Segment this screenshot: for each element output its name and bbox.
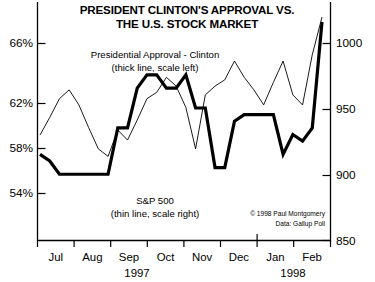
x-year-label-1998: 1998 (280, 267, 305, 279)
legend-sp500-subtitle: (thin line, scale right) (111, 208, 200, 219)
x-year-label-1997: 1997 (124, 267, 149, 279)
source-text: Data: Gallup Poll (276, 220, 326, 228)
x-label-jul: Jul (49, 251, 64, 263)
x-label-feb: Feb (302, 251, 322, 263)
x-label-aug: Aug (82, 251, 102, 263)
x-label-jan: Jan (266, 251, 284, 263)
right-axis-label-900: 900 (336, 168, 356, 182)
x-label-dec: Dec (229, 251, 250, 263)
left-axis-label-58: 58% (9, 141, 33, 155)
left-axis-label-66: 66% (9, 36, 33, 50)
right-axis-label-850: 850 (336, 234, 356, 248)
x-label-sep: Sep (119, 251, 139, 263)
legend-approval-title: Presidential Approval - Clinton (91, 49, 220, 60)
right-axis-label-950: 950 (336, 102, 356, 116)
left-axis-label-54: 54% (9, 186, 33, 200)
chart-title-line-2: THE U.S. STOCK MARKET (116, 17, 258, 30)
legend-sp500-title: S&P 500 (136, 195, 174, 206)
x-label-nov: Nov (192, 251, 213, 263)
copyright-text: © 1998 Paul Montgomery (250, 210, 326, 218)
right-axis-label-1000: 1000 (336, 36, 363, 50)
chart-title-line-1: PRESIDENT CLINTON'S APPROVAL VS. (80, 3, 295, 16)
legend-approval-subtitle: (thick line, scale left) (112, 62, 199, 73)
left-axis-label-62: 62% (9, 96, 33, 110)
approval-vs-stock-market-chart: PRESIDENT CLINTON'S APPROVAL VS. THE U.S… (0, 0, 375, 282)
x-label-oct: Oct (157, 251, 176, 263)
chart-container: PRESIDENT CLINTON'S APPROVAL VS. THE U.S… (0, 0, 375, 282)
